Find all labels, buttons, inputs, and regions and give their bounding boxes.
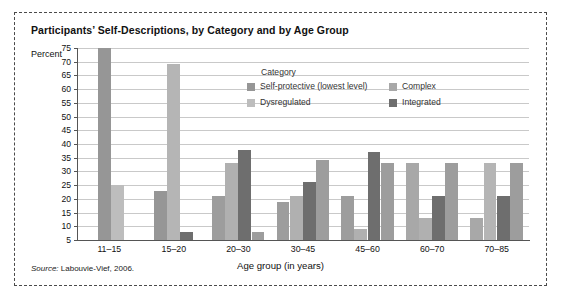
legend-row: Dysregulated Integrated bbox=[247, 98, 475, 107]
y-axis-tick-label: 30 bbox=[41, 167, 71, 176]
legend-row: Self-protective (lowest level) Complex bbox=[247, 82, 475, 91]
bar bbox=[484, 163, 497, 240]
source-citation: Labouvie-Vief, 2006. bbox=[61, 264, 134, 273]
y-axis-tick-label: 45 bbox=[41, 126, 71, 135]
x-axis-line bbox=[77, 240, 530, 241]
bar bbox=[470, 218, 483, 240]
y-axis-tick-label: 15 bbox=[41, 209, 71, 218]
page-title: Participants’ Self-Descriptions, by Cate… bbox=[31, 24, 349, 36]
x-axis-tick-label: 45–60 bbox=[335, 244, 400, 254]
legend-title: Category bbox=[261, 67, 475, 77]
x-axis-tick-label: 20–30 bbox=[206, 244, 271, 254]
y-axis-tick-label: 50 bbox=[41, 113, 71, 122]
bar bbox=[341, 196, 354, 240]
y-axis-tick-label: 60 bbox=[41, 85, 71, 94]
bar bbox=[368, 152, 381, 240]
legend: Category Self-protective (lowest level) … bbox=[247, 67, 475, 114]
y-axis-tick-label: 35 bbox=[41, 154, 71, 163]
legend-label-dysregulated: Dysregulated bbox=[260, 98, 311, 107]
bar-group bbox=[142, 48, 207, 240]
bar bbox=[98, 48, 111, 240]
legend-item-self-protective: Self-protective (lowest level) bbox=[247, 82, 389, 91]
bar bbox=[381, 163, 394, 240]
legend-item-integrated: Integrated bbox=[389, 98, 441, 107]
bar bbox=[290, 196, 303, 240]
figure-frame: Participants’ Self-Descriptions, by Cate… bbox=[14, 12, 547, 286]
y-axis-tick-label: 75 bbox=[41, 44, 71, 53]
bar-group bbox=[77, 48, 142, 240]
y-axis-tick-label: 70 bbox=[41, 58, 71, 67]
y-axis-tick-label: 25 bbox=[41, 181, 71, 190]
bar bbox=[238, 150, 251, 241]
y-axis-tick-label: 65 bbox=[41, 71, 71, 80]
legend-label-self-protective: Self-protective (lowest level) bbox=[260, 82, 367, 91]
y-axis-tick-label: 5 bbox=[41, 236, 71, 245]
bar bbox=[419, 218, 432, 240]
legend-item-dysregulated: Dysregulated bbox=[247, 98, 389, 107]
y-axis-tick-label: 55 bbox=[41, 99, 71, 108]
legend-swatch-integrated-icon bbox=[389, 99, 397, 107]
y-axis-tick-label: 20 bbox=[41, 195, 71, 204]
bar bbox=[406, 163, 419, 240]
legend-swatch-self-protective-icon bbox=[247, 83, 255, 91]
bar bbox=[303, 182, 316, 240]
y-axis-tick-label: 10 bbox=[41, 222, 71, 231]
bar bbox=[497, 196, 510, 240]
x-axis-tick-label: 60–70 bbox=[400, 244, 465, 254]
bar bbox=[445, 163, 458, 240]
legend-label-complex: Complex bbox=[402, 82, 436, 91]
bar bbox=[316, 160, 329, 240]
y-axis-line bbox=[77, 48, 78, 241]
bar bbox=[277, 202, 290, 240]
x-axis-tick-label: 15–20 bbox=[142, 244, 207, 254]
legend-label-integrated: Integrated bbox=[402, 98, 441, 107]
x-axis-tick-label: 70–85 bbox=[464, 244, 529, 254]
bar bbox=[111, 185, 124, 240]
legend-item-complex: Complex bbox=[389, 82, 436, 91]
y-axis-tick-label: 40 bbox=[41, 140, 71, 149]
bar bbox=[225, 163, 238, 240]
source-note: Source: Labouvie-Vief, 2006. bbox=[31, 264, 134, 273]
bar bbox=[180, 232, 193, 240]
bar bbox=[252, 232, 265, 240]
bar bbox=[212, 196, 225, 240]
legend-swatch-complex-icon bbox=[389, 83, 397, 91]
bar bbox=[167, 64, 180, 240]
bar bbox=[432, 196, 445, 240]
x-axis-tick-label: 11–15 bbox=[77, 244, 142, 254]
x-axis-tick-label: 30–45 bbox=[271, 244, 336, 254]
bar bbox=[510, 163, 523, 240]
legend-swatch-dysregulated-icon bbox=[247, 99, 255, 107]
bar bbox=[154, 191, 167, 240]
source-prefix: Source: bbox=[31, 264, 59, 273]
bar bbox=[354, 229, 367, 240]
